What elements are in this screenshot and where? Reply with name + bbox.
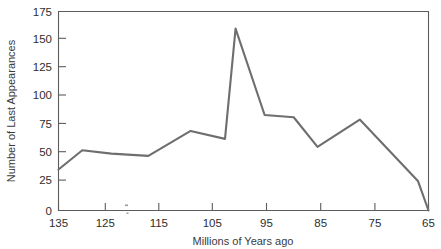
plot-frame	[59, 12, 429, 211]
y-tick-label-50: 50	[39, 146, 52, 158]
y-tick-label-125: 125	[33, 61, 52, 73]
y-tick-label-25: 25	[39, 174, 52, 186]
y-axis-ticks	[59, 38, 67, 180]
x-axis-tick-labels: 135 125 115 105 95 85 75 65	[49, 217, 435, 229]
y-tick-label-150: 150	[33, 33, 52, 45]
y-axis-tick-labels: 175 150 125 100 75 50 25 0	[33, 6, 52, 217]
x-tick-label-105: 105	[203, 217, 222, 229]
data-series-line	[59, 29, 429, 211]
x-tick-label-75: 75	[369, 217, 382, 229]
x-tick-label-95: 95	[260, 217, 273, 229]
x-tick-label-65: 65	[422, 217, 435, 229]
scan-speck	[127, 213, 129, 214]
y-tick-label-175: 175	[33, 6, 52, 18]
x-axis-title: Millions of Years ago	[193, 235, 294, 247]
scan-speck	[125, 205, 128, 207]
y-tick-label-0: 0	[46, 205, 52, 217]
x-axis-ticks	[59, 203, 429, 211]
y-tick-label-75: 75	[39, 118, 52, 130]
y-tick-label-100: 100	[33, 89, 52, 101]
x-tick-label-85: 85	[314, 217, 327, 229]
chart-container: 175 150 125 100 75 50 25 0 135 125 115 1…	[0, 0, 441, 249]
last-appearances-line-chart: 175 150 125 100 75 50 25 0 135 125 115 1…	[0, 0, 441, 249]
x-tick-label-125: 125	[96, 217, 115, 229]
y-axis-title: Number of Last Appearances	[5, 39, 17, 182]
x-tick-label-115: 115	[150, 217, 168, 229]
x-tick-label-135: 135	[49, 217, 68, 229]
